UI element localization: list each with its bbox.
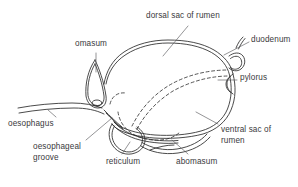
label-duodenum: duodenum [251, 34, 291, 45]
label-oesophageal-groove-line2: groove [33, 153, 59, 162]
label-oesophageal-groove: oesophageal groove [33, 141, 95, 163]
rumen-outer-outline-inner [106, 43, 231, 135]
internal-dashed-reticulum-arc [110, 93, 126, 104]
duodenum-coil-inner [231, 56, 242, 69]
label-pylorus: pylorus [240, 72, 267, 83]
oesophagus-lower-wall [19, 108, 104, 114]
label-omasum: omasum [75, 38, 107, 49]
label-ventral-sac-of-rumen: ventral sac of rumen [221, 124, 283, 146]
internal-dashed-contour-upper [132, 70, 228, 126]
label-oesophagus: oesophagus [8, 118, 54, 129]
leader-oesophagus [48, 110, 56, 117]
label-ventral-sac-of-rumen-line1: ventral sac of [221, 125, 271, 134]
leader-ventral-sac-of-rumen [196, 112, 218, 124]
label-abomasum: abomasum [176, 156, 217, 167]
label-reticulum: reticulum [106, 156, 140, 167]
label-oesophageal-groove-line1: oesophageal [33, 142, 81, 151]
leader-oesophageal-groove [86, 118, 112, 140]
label-ventral-sac-of-rumen-line2: rumen [221, 136, 245, 145]
duodenum-tube-inner [239, 39, 246, 50]
diagram-canvas: omasum dorsal sac of rumen duodenum pylo… [0, 0, 298, 187]
reticulum-body [109, 124, 145, 154]
internal-dashed-contour-lower [137, 76, 229, 129]
label-dorsal-sac-of-rumen: dorsal sac of rumen [146, 10, 220, 21]
